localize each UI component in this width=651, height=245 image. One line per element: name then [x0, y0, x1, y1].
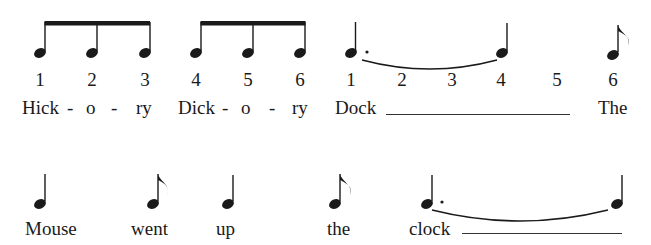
lyric-extender-line — [462, 233, 622, 234]
lyric-word: clock — [409, 219, 450, 238]
dotted-quarter-note-dock — [343, 22, 368, 60]
lyric-word: Dock — [335, 98, 376, 117]
lyric-hyphen: - — [222, 98, 228, 117]
lyric-hyphen: - — [67, 98, 73, 117]
beamed-eighth-group-hickory — [32, 21, 152, 60]
count: 4 — [191, 70, 201, 89]
count: 2 — [87, 70, 97, 89]
dotted-quarter-note-clock — [419, 175, 443, 211]
lyric-hyphen: - — [269, 98, 275, 117]
count: 4 — [496, 70, 506, 89]
tie-arc-2 — [432, 210, 608, 221]
count: 2 — [397, 70, 407, 89]
count: 6 — [608, 70, 618, 89]
lyric-word: up — [216, 219, 235, 238]
eighth-note-the — [605, 25, 629, 62]
lyric-syllable: Dick — [178, 98, 215, 117]
lyric-word: went — [131, 219, 168, 238]
lyric-syllable: ry — [292, 98, 308, 117]
eighth-note-went — [145, 174, 168, 211]
lyric-hyphen: - — [111, 98, 117, 117]
lyric-syllable: o — [86, 98, 96, 117]
eighth-note-the-2 — [327, 174, 351, 211]
lyric-syllable: o — [241, 98, 251, 117]
quarter-note-up — [220, 175, 235, 211]
lyric-extender-line — [386, 114, 570, 115]
quarter-note-mouse — [32, 174, 47, 211]
augmentation-dot — [440, 200, 443, 203]
lyric-syllable: Hick — [22, 98, 59, 117]
count: 5 — [243, 70, 253, 89]
augmentation-dot — [365, 50, 368, 53]
count: 5 — [552, 70, 562, 89]
beamed-eighth-group-dickory — [188, 21, 307, 60]
lyric-word: The — [598, 98, 628, 117]
count: 3 — [140, 70, 150, 89]
tie-arc — [362, 60, 497, 69]
lyric-syllable: ry — [136, 98, 152, 117]
count: 3 — [447, 70, 457, 89]
lyric-word: the — [327, 219, 350, 238]
quarter-note-clock-end — [609, 175, 624, 211]
flag — [618, 25, 629, 46]
count: 1 — [346, 70, 356, 89]
quarter-note — [494, 23, 509, 60]
count: 1 — [35, 70, 45, 89]
lyric-word: Mouse — [25, 219, 77, 238]
rhythm-notation — [0, 0, 651, 245]
count: 6 — [295, 70, 305, 89]
